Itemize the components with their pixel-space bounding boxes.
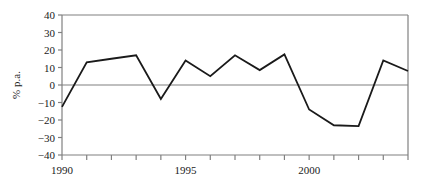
y-tick-label: 0 [50, 79, 56, 91]
y-tick-label: −20 [38, 114, 56, 126]
x-tick-label: 2000 [298, 164, 321, 176]
y-axis-title: % p.a. [10, 71, 22, 99]
x-tick-label: 1990 [51, 164, 74, 176]
line-chart: 403020100−10−20−30−40199019952000% p.a. [0, 0, 431, 183]
x-tick-label: 1995 [175, 164, 198, 176]
y-tick-label: −40 [38, 149, 56, 161]
y-tick-label: 40 [44, 9, 56, 21]
data-series-line [62, 54, 408, 126]
y-tick-label: −30 [38, 132, 56, 144]
y-tick-label: 30 [44, 27, 56, 39]
y-tick-label: 20 [44, 44, 56, 56]
y-tick-label: 10 [44, 62, 56, 74]
y-tick-label: −10 [38, 97, 56, 109]
chart-container: 403020100−10−20−30−40199019952000% p.a. [0, 0, 431, 183]
